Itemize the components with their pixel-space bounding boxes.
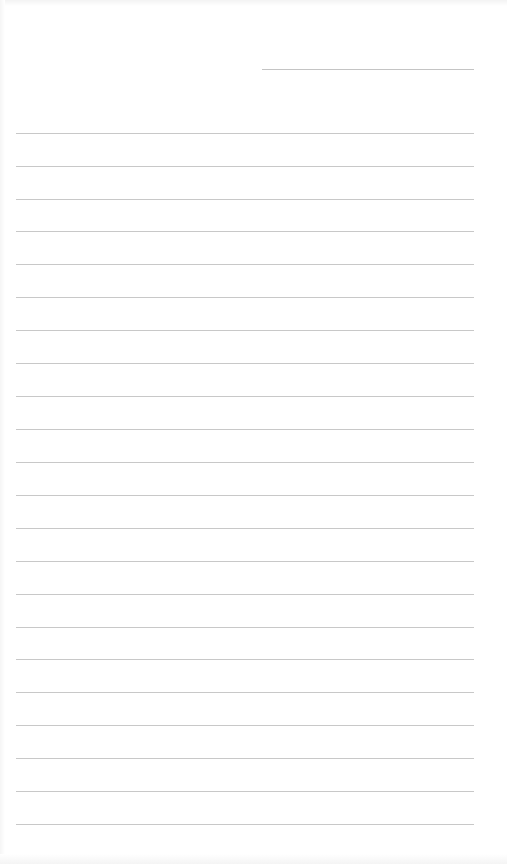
writing-line[interactable] — [16, 528, 474, 529]
bottom-edge-shadow — [0, 854, 507, 864]
writing-line[interactable] — [16, 561, 474, 562]
writing-line[interactable] — [16, 133, 474, 134]
left-edge-shadow — [0, 0, 5, 864]
date-field-line[interactable] — [262, 69, 474, 70]
writing-line[interactable] — [16, 824, 474, 825]
writing-line[interactable] — [16, 231, 474, 232]
writing-line[interactable] — [16, 462, 474, 463]
writing-line[interactable] — [16, 758, 474, 759]
writing-line[interactable] — [16, 791, 474, 792]
writing-line[interactable] — [16, 330, 474, 331]
writing-line[interactable] — [16, 627, 474, 628]
writing-line[interactable] — [16, 297, 474, 298]
writing-line[interactable] — [16, 199, 474, 200]
writing-line[interactable] — [16, 495, 474, 496]
writing-line[interactable] — [16, 692, 474, 693]
writing-line[interactable] — [16, 594, 474, 595]
top-edge-shadow — [0, 0, 507, 6]
writing-line[interactable] — [16, 725, 474, 726]
writing-line[interactable] — [16, 396, 474, 397]
writing-line[interactable] — [16, 659, 474, 660]
writing-line[interactable] — [16, 429, 474, 430]
writing-line[interactable] — [16, 363, 474, 364]
lined-paper-page — [0, 0, 507, 864]
writing-line[interactable] — [16, 166, 474, 167]
writing-line[interactable] — [16, 264, 474, 265]
